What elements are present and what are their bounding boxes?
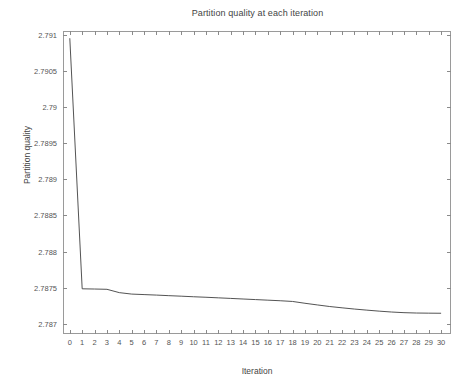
- x-tick-mark-top: [429, 31, 430, 35]
- x-tick-mark-top: [169, 31, 170, 35]
- x-tick-mark-top: [330, 31, 331, 35]
- x-tick-mark-top: [255, 31, 256, 35]
- y-tick-mark-right: [447, 35, 451, 36]
- x-tick-label: 30: [431, 338, 451, 347]
- y-tick-mark: [63, 35, 67, 36]
- x-tick-mark-top: [367, 31, 368, 35]
- x-tick-mark-top: [107, 31, 108, 35]
- x-tick-mark: [416, 330, 417, 334]
- y-tick-label: 2.789: [17, 175, 57, 184]
- x-tick-mark: [243, 330, 244, 334]
- x-tick-mark-top: [404, 31, 405, 35]
- x-tick-mark: [404, 330, 405, 334]
- x-tick-mark: [342, 330, 343, 334]
- x-tick-mark: [441, 330, 442, 334]
- x-tick-mark: [70, 330, 71, 334]
- x-tick-mark: [119, 330, 120, 334]
- x-tick-mark-top: [144, 31, 145, 35]
- x-tick-mark-top: [181, 31, 182, 35]
- x-tick-mark-top: [268, 31, 269, 35]
- x-tick-mark-top: [95, 31, 96, 35]
- x-tick-mark-top: [280, 31, 281, 35]
- x-tick-mark-top: [70, 31, 71, 35]
- x-tick-mark: [330, 330, 331, 334]
- series-line-partition-quality: [70, 38, 441, 313]
- x-tick-mark: [255, 330, 256, 334]
- x-tick-mark: [367, 330, 368, 334]
- x-tick-mark-top: [392, 31, 393, 35]
- plot-canvas: [63, 31, 451, 334]
- y-tick-mark-right: [447, 252, 451, 253]
- x-tick-mark-top: [194, 31, 195, 35]
- x-tick-mark-top: [132, 31, 133, 35]
- x-tick-mark: [144, 330, 145, 334]
- x-tick-mark: [206, 330, 207, 334]
- x-tick-mark-top: [156, 31, 157, 35]
- x-tick-mark: [156, 330, 157, 334]
- x-tick-mark: [392, 330, 393, 334]
- x-tick-mark: [305, 330, 306, 334]
- x-tick-mark-top: [441, 31, 442, 35]
- x-tick-mark: [107, 330, 108, 334]
- x-tick-mark: [95, 330, 96, 334]
- x-tick-mark: [379, 330, 380, 334]
- x-axis-title: Iteration: [63, 366, 451, 376]
- x-tick-mark-top: [243, 31, 244, 35]
- x-tick-mark: [293, 330, 294, 334]
- x-tick-mark-top: [416, 31, 417, 35]
- y-tick-mark: [63, 252, 67, 253]
- y-tick-mark: [63, 215, 67, 216]
- y-tick-label: 2.788: [17, 247, 57, 256]
- y-tick-mark-right: [447, 215, 451, 216]
- y-tick-label: 2.7895: [17, 139, 57, 148]
- y-tick-label: 2.791: [17, 30, 57, 39]
- x-tick-mark: [169, 330, 170, 334]
- y-tick-mark: [63, 71, 67, 72]
- y-tick-mark: [63, 288, 67, 289]
- x-tick-mark-top: [82, 31, 83, 35]
- y-tick-label: 2.7875: [17, 283, 57, 292]
- x-tick-mark-top: [379, 31, 380, 35]
- x-tick-mark-top: [305, 31, 306, 35]
- x-tick-mark: [280, 330, 281, 334]
- y-axis-title: Partition quality: [22, 95, 32, 215]
- x-tick-mark: [268, 330, 269, 334]
- x-tick-mark: [429, 330, 430, 334]
- x-tick-mark: [181, 330, 182, 334]
- y-tick-mark: [63, 179, 67, 180]
- y-tick-mark-right: [447, 107, 451, 108]
- x-tick-mark-top: [231, 31, 232, 35]
- x-tick-mark: [132, 330, 133, 334]
- y-tick-label: 2.7905: [17, 66, 57, 75]
- y-tick-mark-right: [447, 179, 451, 180]
- x-tick-mark-top: [354, 31, 355, 35]
- x-tick-mark: [231, 330, 232, 334]
- y-tick-mark: [63, 324, 67, 325]
- chart-title: Partition quality at each iteration: [63, 8, 452, 18]
- x-tick-mark: [354, 330, 355, 334]
- y-tick-mark: [63, 143, 67, 144]
- chart-figure: Partition quality at each iteration Part…: [0, 0, 469, 387]
- y-tick-mark-right: [447, 324, 451, 325]
- x-tick-mark: [82, 330, 83, 334]
- y-tick-mark-right: [447, 71, 451, 72]
- x-tick-mark-top: [317, 31, 318, 35]
- x-tick-mark-top: [119, 31, 120, 35]
- x-tick-mark-top: [342, 31, 343, 35]
- x-tick-mark-top: [218, 31, 219, 35]
- x-tick-mark-top: [293, 31, 294, 35]
- y-tick-label: 2.79: [17, 102, 57, 111]
- y-tick-mark-right: [447, 288, 451, 289]
- y-tick-label: 2.7885: [17, 211, 57, 220]
- x-tick-mark: [194, 330, 195, 334]
- x-tick-mark: [317, 330, 318, 334]
- y-tick-label: 2.787: [17, 319, 57, 328]
- x-tick-mark: [218, 330, 219, 334]
- y-tick-mark-right: [447, 143, 451, 144]
- y-tick-mark: [63, 107, 67, 108]
- x-tick-mark-top: [206, 31, 207, 35]
